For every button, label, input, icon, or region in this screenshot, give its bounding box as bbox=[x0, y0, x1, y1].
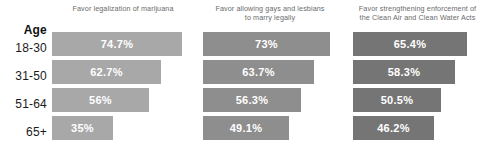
column-header-marriage: Favor allowing gays and lesbians to marr… bbox=[200, 4, 340, 22]
age-label-65-plus: 65+ bbox=[0, 125, 47, 139]
column-header-marriage-line2: to marry legally bbox=[245, 13, 295, 22]
bar-value-marijuana-51-64: 56% bbox=[89, 94, 112, 106]
bar-marriage-65-plus: 49.1% bbox=[203, 116, 289, 140]
bar-marijuana-65-plus: 35% bbox=[52, 116, 113, 140]
bar-value-environment-31-50: 58.3% bbox=[388, 66, 421, 78]
column-header-marriage-line1: Favor allowing gays and lesbians bbox=[215, 4, 324, 13]
chart-figure: Favor legalization of marijuana Favor al… bbox=[0, 0, 488, 148]
age-label-51-64: 51-64 bbox=[0, 97, 47, 111]
bar-value-marriage-65-plus: 49.1% bbox=[230, 122, 263, 134]
bar-value-environment-65-plus: 46.2% bbox=[377, 122, 410, 134]
bar-value-marijuana-18-30: 74.7% bbox=[101, 38, 134, 50]
column-header-environment: Favor strengthening enforcement of the C… bbox=[347, 4, 488, 22]
bar-marriage-31-50: 63.7% bbox=[203, 60, 314, 84]
age-label-31-50: 31-50 bbox=[0, 69, 47, 83]
bar-environment-51-64: 50.5% bbox=[353, 88, 441, 112]
bar-value-environment-51-64: 50.5% bbox=[381, 94, 414, 106]
bar-marijuana-31-50: 62.7% bbox=[52, 60, 161, 84]
age-axis-title: Age bbox=[0, 23, 47, 37]
bar-value-marriage-51-64: 56.3% bbox=[236, 94, 269, 106]
bar-environment-65-plus: 46.2% bbox=[353, 116, 434, 140]
bar-value-marriage-18-30: 73% bbox=[255, 38, 278, 50]
bar-value-marijuana-31-50: 62.7% bbox=[90, 66, 123, 78]
bar-marriage-18-30: 73% bbox=[203, 32, 330, 56]
bar-marriage-51-64: 56.3% bbox=[203, 88, 301, 112]
bar-marijuana-18-30: 74.7% bbox=[52, 32, 182, 56]
column-header-marijuana-text: Favor legalization of marijuana bbox=[73, 4, 174, 13]
column-header-environment-line1: Favor strengthening enforcement of bbox=[359, 4, 476, 13]
column-header-marijuana: Favor legalization of marijuana bbox=[52, 4, 194, 13]
bar-value-environment-18-30: 65.4% bbox=[394, 38, 427, 50]
bar-value-marriage-31-50: 63.7% bbox=[242, 66, 275, 78]
bar-value-marijuana-65-plus: 35% bbox=[71, 122, 94, 134]
column-header-environment-line2: the Clean Air and Clean Water Acts bbox=[360, 13, 476, 22]
bar-marijuana-51-64: 56% bbox=[52, 88, 149, 112]
age-label-18-30: 18-30 bbox=[0, 41, 47, 55]
bar-environment-18-30: 65.4% bbox=[353, 32, 467, 56]
bar-environment-31-50: 58.3% bbox=[353, 60, 455, 84]
